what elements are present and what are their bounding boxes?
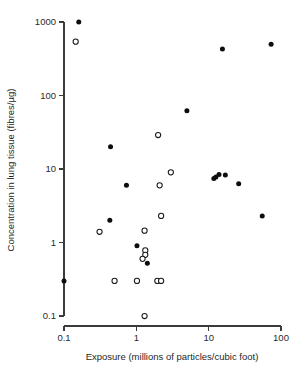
data-point-open-11: [134, 278, 139, 283]
data-point-filled-12: [107, 218, 112, 223]
data-point-filled-8: [217, 172, 222, 177]
x-tick-label: 10: [203, 332, 214, 343]
x-axis-title: Exposure (millions of particles/cubic fo…: [86, 351, 259, 362]
x-tick-label: 1: [134, 332, 139, 343]
data-point-open-0: [73, 39, 78, 44]
data-point-filled-4: [108, 144, 113, 149]
axis-ticks: 10001001010.10.1110100: [35, 16, 289, 343]
y-tick-label: 1000: [35, 16, 56, 27]
data-points: [62, 20, 274, 319]
data-point-filled-14: [145, 261, 150, 266]
x-tick-label: 100: [273, 332, 289, 343]
plot-area: 10001001010.10.1110100 Exposure (million…: [0, 0, 297, 368]
data-point-filled-13: [134, 243, 139, 248]
data-point-open-5: [97, 229, 102, 234]
data-point-filled-2: [269, 42, 274, 47]
data-point-open-4: [159, 213, 164, 218]
data-point-filled-10: [236, 181, 241, 186]
data-point-filled-5: [124, 183, 129, 188]
data-point-filled-3: [184, 108, 189, 113]
y-tick-label: 100: [40, 90, 56, 101]
data-point-open-3: [157, 183, 162, 188]
data-point-filled-15: [62, 278, 67, 283]
data-point-open-9: [140, 256, 145, 261]
data-point-open-13: [159, 278, 164, 283]
data-point-open-6: [142, 228, 147, 233]
y-tick-label: 1: [51, 237, 56, 248]
data-point-open-10: [112, 278, 117, 283]
y-tick-label: 10: [45, 163, 56, 174]
data-point-open-2: [168, 170, 173, 175]
data-point-filled-1: [220, 46, 225, 51]
x-tick-label: 0.1: [57, 332, 70, 343]
data-point-open-14: [142, 313, 147, 318]
data-point-open-1: [156, 132, 161, 137]
data-point-filled-9: [223, 172, 228, 177]
y-axis-title: Concentration in lung tissue (fibres/µg): [5, 89, 16, 252]
scatter-chart: 10001001010.10.1110100 Exposure (million…: [0, 0, 297, 368]
y-tick-label: 0.1: [43, 310, 56, 321]
data-point-filled-0: [76, 20, 81, 25]
data-point-filled-11: [260, 213, 265, 218]
